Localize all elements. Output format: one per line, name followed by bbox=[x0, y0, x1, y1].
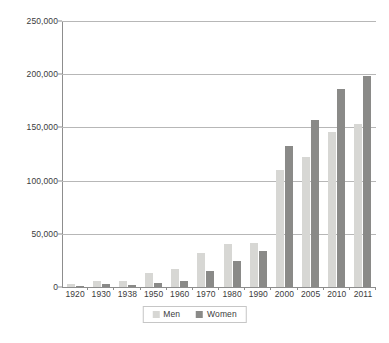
bar-women-2005 bbox=[311, 120, 319, 287]
bar-group bbox=[298, 21, 324, 287]
legend-item-women[interactable]: Women bbox=[196, 309, 237, 319]
x-tick-label: 1920 bbox=[62, 289, 88, 299]
bar-group bbox=[193, 21, 219, 287]
legend-label: Women bbox=[207, 309, 237, 319]
bar-men-2005 bbox=[302, 157, 310, 287]
x-tick-label: 1938 bbox=[114, 289, 140, 299]
bar-men-2010 bbox=[328, 132, 336, 287]
legend-swatch-women-icon bbox=[196, 311, 203, 318]
y-axis-ticks: 050,000100,000150,000200,000250,000 bbox=[0, 0, 58, 343]
bar-group bbox=[88, 21, 114, 287]
x-tick-label: 1930 bbox=[88, 289, 114, 299]
bar-women-2000 bbox=[285, 146, 293, 288]
legend-item-men[interactable]: Men bbox=[152, 309, 180, 319]
x-tick-label: 2011 bbox=[350, 289, 376, 299]
bar-men-2011 bbox=[354, 124, 362, 287]
bar-group bbox=[350, 21, 376, 287]
x-tick-label: 1950 bbox=[141, 289, 167, 299]
bar-women-2011 bbox=[363, 76, 371, 287]
bar-group bbox=[114, 21, 140, 287]
chart-legend: MenWomen bbox=[142, 306, 246, 323]
x-axis-labels: 1920193019381950196019701980199020002005… bbox=[62, 289, 376, 299]
y-tick-label: 100,000 bbox=[27, 176, 58, 186]
bar-men-1970 bbox=[197, 253, 205, 287]
bar-group bbox=[324, 21, 350, 287]
bar-women-1990 bbox=[259, 251, 267, 287]
y-tick-label: 250,000 bbox=[27, 16, 58, 26]
bar-groups bbox=[62, 21, 376, 287]
bar-men-1980 bbox=[224, 244, 232, 287]
x-tick-label: 1960 bbox=[167, 289, 193, 299]
bar-group bbox=[271, 21, 297, 287]
bar-chart: 050,000100,000150,000200,000250,000 1920… bbox=[0, 0, 389, 343]
bar-group bbox=[62, 21, 88, 287]
bar-women-2010 bbox=[337, 89, 345, 287]
x-tick-label: 1980 bbox=[219, 289, 245, 299]
legend-swatch-men-icon bbox=[152, 311, 159, 318]
bar-group bbox=[219, 21, 245, 287]
legend-label: Men bbox=[163, 309, 180, 319]
bar-men-1960 bbox=[171, 269, 179, 287]
x-tick-label: 1990 bbox=[245, 289, 271, 299]
bar-women-1970 bbox=[206, 271, 214, 287]
bar-group bbox=[167, 21, 193, 287]
y-tick-label: 200,000 bbox=[27, 69, 58, 79]
x-tick-label: 2005 bbox=[298, 289, 324, 299]
bar-women-1980 bbox=[233, 261, 241, 287]
x-tick-label: 2000 bbox=[271, 289, 297, 299]
bar-men-2000 bbox=[276, 170, 284, 287]
bar-men-1990 bbox=[250, 243, 258, 287]
bar-men-1950 bbox=[145, 273, 153, 287]
y-tick-label: 150,000 bbox=[27, 122, 58, 132]
bar-group bbox=[245, 21, 271, 287]
y-tick-label: 50,000 bbox=[31, 229, 58, 239]
x-tick-label: 1970 bbox=[193, 289, 219, 299]
x-tick-label: 2010 bbox=[324, 289, 350, 299]
bar-group bbox=[141, 21, 167, 287]
